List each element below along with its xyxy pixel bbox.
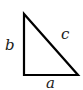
triangle-shape — [24, 14, 78, 75]
right-triangle-diagram: b c a — [0, 0, 83, 90]
label-c: c — [61, 25, 70, 43]
label-b: b — [5, 36, 15, 54]
label-a: a — [46, 74, 55, 90]
